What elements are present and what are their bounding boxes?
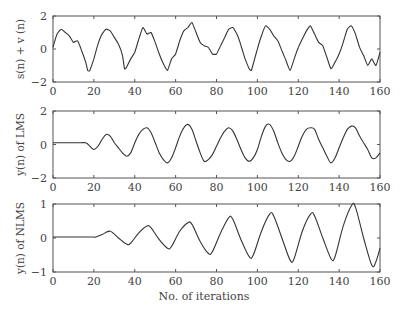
- y-tick-label: 0: [40, 43, 47, 56]
- x-tick-label: 60: [169, 275, 183, 288]
- x-tick-label: 80: [210, 85, 224, 98]
- x-tick-label: 140: [329, 275, 350, 288]
- x-tick-label: 160: [370, 275, 391, 288]
- x-tick-label: 0: [50, 85, 57, 98]
- axes-frame: [53, 111, 380, 178]
- x-tick-label: 60: [169, 181, 183, 194]
- axes-frame: [53, 16, 380, 82]
- figure: 020406080100120140160−202s(n) + v (n)020…: [0, 0, 408, 321]
- x-tick-label: 140: [329, 85, 350, 98]
- x-tick-label: 160: [370, 85, 391, 98]
- x-tick-label: 120: [288, 181, 309, 194]
- y-tick-label: 0: [40, 232, 47, 245]
- axes-frame: [53, 204, 380, 272]
- series-line: [53, 23, 380, 71]
- y-tick-label: 2: [40, 105, 47, 118]
- x-tick-label: 0: [50, 275, 57, 288]
- nlms-output-panel: 020406080100120140160−101y(n) of NLMS: [14, 198, 391, 288]
- x-tick-label: 120: [288, 275, 309, 288]
- x-tick-label: 60: [169, 85, 183, 98]
- signal-plus-noise-panel: 020406080100120140160−202s(n) + v (n): [14, 10, 391, 98]
- series-line: [53, 203, 380, 267]
- y-tick-label: 0: [40, 139, 47, 152]
- lms-output-panel: 020406080100120140160−202y(n) of LMS: [14, 105, 391, 194]
- x-tick-label: 80: [210, 275, 224, 288]
- x-tick-label: 40: [128, 181, 142, 194]
- x-tick-label: 160: [370, 181, 391, 194]
- x-tick-label: 20: [87, 181, 101, 194]
- x-tick-label: 100: [247, 85, 268, 98]
- series-line: [53, 124, 380, 163]
- x-tick-label: 100: [247, 181, 268, 194]
- y-axis-label: y(n) of LMS: [14, 113, 26, 177]
- x-tick-label: 20: [87, 85, 101, 98]
- x-tick-label: 120: [288, 85, 309, 98]
- y-tick-label: 1: [40, 198, 47, 211]
- y-tick-label: −2: [31, 76, 47, 89]
- x-tick-label: 40: [128, 85, 142, 98]
- x-tick-label: 20: [87, 275, 101, 288]
- y-tick-label: 2: [40, 10, 47, 23]
- x-tick-label: 40: [128, 275, 142, 288]
- x-tick-label: 100: [247, 275, 268, 288]
- y-tick-label: −1: [31, 266, 47, 279]
- x-tick-label: 0: [50, 181, 57, 194]
- y-axis-label: y(n) of NLMS: [14, 202, 26, 275]
- x-tick-label: 140: [329, 181, 350, 194]
- y-tick-label: −2: [31, 172, 47, 185]
- y-axis-label: s(n) + v (n): [14, 19, 26, 79]
- x-axis-label: No. of iterations: [0, 290, 408, 303]
- x-tick-label: 80: [210, 181, 224, 194]
